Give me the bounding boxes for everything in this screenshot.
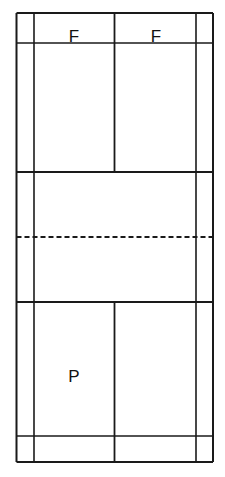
- label-f-left: F: [69, 27, 79, 46]
- court-diagram-canvas: FFP: [0, 0, 225, 477]
- label-p: P: [68, 367, 79, 386]
- court-diagram: FFP: [0, 0, 225, 477]
- label-f-right: F: [151, 27, 161, 46]
